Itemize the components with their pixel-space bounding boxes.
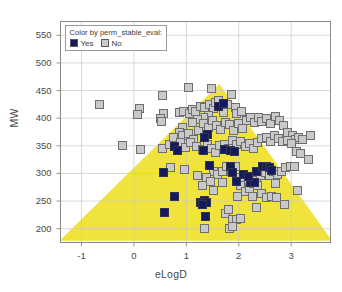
data-point-marker[interactable] (224, 205, 233, 214)
data-point-marker[interactable] (157, 117, 166, 126)
data-point-marker[interactable] (233, 192, 242, 201)
legend-swatch-icon (101, 39, 109, 47)
data-point-marker[interactable] (199, 146, 208, 155)
legend-entry-label: Yes (81, 39, 94, 48)
y-tick-label: 300 (22, 167, 52, 178)
data-point-marker[interactable] (205, 161, 214, 170)
data-point-marker[interactable] (201, 212, 210, 221)
data-point-marker[interactable] (228, 222, 237, 231)
data-point-marker[interactable] (95, 100, 104, 109)
x-tick-label: -1 (69, 250, 93, 261)
legend-swatch-icon (70, 39, 78, 47)
data-point-marker[interactable] (228, 168, 237, 177)
data-point-marker[interactable] (218, 178, 227, 187)
data-point-marker[interactable] (230, 147, 239, 156)
y-tick-label: 550 (22, 29, 52, 40)
data-point-marker[interactable] (200, 224, 209, 233)
data-point-marker[interactable] (159, 168, 168, 177)
legend[interactable]: Color by perm_stable_eval: YesNo (65, 25, 167, 51)
x-tick-label: 1 (174, 250, 198, 261)
y-tick-label: 200 (22, 223, 52, 234)
legend-entry-label: No (112, 39, 122, 48)
data-point-marker[interactable] (232, 177, 241, 186)
legend-title: Color by perm_stable_eval: (70, 28, 162, 38)
data-point-marker[interactable] (290, 162, 299, 171)
x-axis-title: eLogD (0, 268, 342, 280)
x-tick-label: 2 (227, 250, 251, 261)
data-point-marker[interactable] (271, 179, 280, 188)
data-point-marker[interactable] (267, 166, 276, 175)
data-point-marker[interactable] (238, 124, 247, 133)
y-tick-label: 450 (22, 85, 52, 96)
data-point-marker[interactable] (184, 83, 193, 92)
scatter-plot-figure: 200250300350400450500550 -10123 MW eLogD… (0, 0, 342, 292)
x-tick-label: 0 (122, 250, 146, 261)
x-tick-label: 3 (279, 250, 303, 261)
legend-entry-no[interactable]: No (101, 39, 122, 48)
data-point-marker[interactable] (304, 155, 313, 164)
y-tick-label: 250 (22, 195, 52, 206)
data-point-marker[interactable] (173, 146, 182, 155)
data-point-marker[interactable] (227, 90, 236, 99)
data-point-marker[interactable] (209, 186, 218, 195)
data-point-marker[interactable] (170, 192, 179, 201)
data-point-marker[interactable] (206, 177, 215, 186)
y-axis-title: MW (8, 103, 20, 133)
data-point-marker[interactable] (252, 203, 261, 212)
data-point-marker[interactable] (133, 110, 142, 119)
data-point-marker[interactable] (244, 172, 253, 181)
legend-entry-yes[interactable]: Yes (70, 39, 94, 48)
data-point-marker[interactable] (280, 200, 289, 209)
data-point-marker[interactable] (158, 91, 167, 100)
data-point-marker[interactable] (198, 200, 207, 209)
data-point-marker[interactable] (219, 99, 228, 108)
data-point-marker[interactable] (160, 208, 169, 217)
legend-entries: YesNo (70, 39, 162, 48)
data-point-marker[interactable] (306, 131, 315, 140)
data-point-marker[interactable] (200, 133, 209, 142)
data-point-marker[interactable] (248, 192, 257, 201)
y-tick-label: 350 (22, 140, 52, 151)
data-point-marker[interactable] (293, 186, 302, 195)
data-point-marker[interactable] (118, 141, 127, 150)
data-point-marker[interactable] (236, 214, 245, 223)
y-tick-label: 400 (22, 112, 52, 123)
data-point-marker[interactable] (136, 145, 145, 154)
data-point-marker[interactable] (207, 84, 216, 93)
y-tick-label: 500 (22, 57, 52, 68)
data-point-marker[interactable] (180, 165, 189, 174)
